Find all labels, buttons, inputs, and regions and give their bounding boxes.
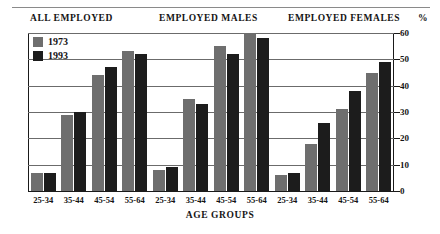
legend-label-1993: 1993 xyxy=(48,51,68,61)
panel-title-row: ALL EMPLOYED EMPLOYED MALES EMPLOYED FEM… xyxy=(0,13,440,27)
x-tick-label: 25-34 xyxy=(33,195,53,205)
x-axis-title: AGE GROUPS xyxy=(0,210,440,220)
x-tick-label: 35-44 xyxy=(308,195,328,205)
x-axis-tick-labels: 25-3435-4445-5455-6425-3435-4445-5455-64… xyxy=(0,195,440,208)
x-tick-label: 55-64 xyxy=(247,195,267,205)
y-tick-label-50: 50 xyxy=(400,55,409,64)
y-tick-label-10: 10 xyxy=(400,160,409,169)
gridline-40 xyxy=(28,86,394,87)
gridline-20 xyxy=(28,138,394,139)
percent-axis-symbol: % xyxy=(418,13,428,23)
gridline-10 xyxy=(28,165,394,166)
gridline-30 xyxy=(28,112,394,113)
y-tick-label-60: 60 xyxy=(400,29,409,38)
legend-item-1973: 1973 xyxy=(33,36,97,48)
legend: 1973 1993 xyxy=(33,36,97,64)
gridline-0 xyxy=(28,191,394,192)
x-tick-label: 55-64 xyxy=(369,195,389,205)
gridline-60 xyxy=(28,33,394,34)
top-divider-rule xyxy=(12,7,430,8)
x-tick-label: 55-64 xyxy=(125,195,145,205)
x-tick-label: 45-54 xyxy=(216,195,236,205)
legend-item-1993: 1993 xyxy=(33,50,97,62)
y-tick-label-20: 20 xyxy=(400,134,409,143)
chart-figure: ALL EMPLOYED EMPLOYED MALES EMPLOYED FEM… xyxy=(0,0,440,234)
legend-swatch-1993 xyxy=(33,51,43,61)
panel-title-employed-males: EMPLOYED MALES xyxy=(159,13,258,23)
y-tick-label-40: 40 xyxy=(400,81,409,90)
x-tick-label: 35-44 xyxy=(186,195,206,205)
panel-title-employed-females: EMPLOYED FEMALES xyxy=(288,13,400,23)
legend-swatch-1973 xyxy=(33,37,43,47)
x-tick-label: 45-54 xyxy=(338,195,358,205)
x-tick-label: 25-34 xyxy=(277,195,297,205)
x-tick-label: 35-44 xyxy=(64,195,84,205)
y-tick-label-30: 30 xyxy=(400,108,409,117)
x-tick-label: 25-34 xyxy=(155,195,175,205)
x-tick-label: 45-54 xyxy=(94,195,114,205)
panel-title-all-employed: ALL EMPLOYED xyxy=(30,13,113,23)
legend-label-1973: 1973 xyxy=(48,37,68,47)
